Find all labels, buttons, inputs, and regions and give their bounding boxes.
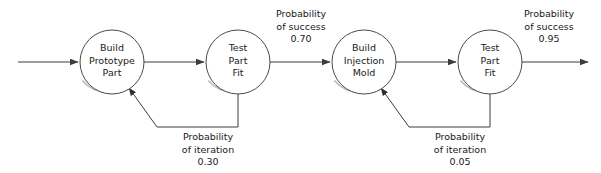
edge-test2-feedback-to-mold [381, 88, 490, 127]
annotation-line: Probability [183, 131, 234, 142]
annotation-value: 0.70 [290, 33, 311, 44]
node-label-line: Fit [484, 67, 495, 78]
node-label-line: Test [228, 42, 248, 53]
annotation-line: of iteration [434, 144, 486, 155]
annotation-line: Probability [435, 131, 486, 142]
node-label-line: Test [480, 42, 500, 53]
node-build-injection-mold[interactable]: Build Injection Mold [332, 30, 396, 94]
annotation-probability-of-success-070: Probability of success 0.70 [276, 8, 327, 44]
node-label-line: Build [352, 42, 376, 53]
annotation-line: Probability [276, 8, 327, 19]
annotation-line: of success [276, 21, 325, 32]
annotation-value: 0.30 [197, 156, 218, 167]
process-flow-diagram: Build Prototype Part Test Part Fit Build… [0, 0, 601, 173]
node-label-line: Mold [353, 67, 376, 78]
annotation-probability-of-iteration-030: Probability of iteration 0.30 [182, 131, 234, 167]
node-label-line: Part [229, 55, 248, 66]
node-test-part-fit-2[interactable]: Test Part Fit [458, 30, 522, 94]
node-label-line: Prototype [89, 55, 135, 66]
annotation-probability-of-success-095: Probability of success 0.95 [524, 8, 575, 44]
annotation-value: 0.95 [538, 33, 559, 44]
node-test-part-fit-1[interactable]: Test Part Fit [206, 30, 270, 94]
annotation-value: 0.05 [449, 156, 470, 167]
annotation-line: of iteration [182, 144, 234, 155]
edge-test1-feedback-to-prototype [129, 88, 238, 127]
node-label-line: Fit [232, 67, 243, 78]
annotation-line: of success [524, 21, 573, 32]
node-label-line: Build [100, 42, 124, 53]
node-label-line: Injection [344, 55, 385, 66]
annotation-probability-of-iteration-005: Probability of iteration 0.05 [434, 131, 486, 167]
node-build-prototype-part[interactable]: Build Prototype Part [80, 30, 144, 94]
annotation-line: Probability [524, 8, 575, 19]
node-label-line: Part [103, 67, 122, 78]
flow-diagram-canvas: Build Prototype Part Test Part Fit Build… [0, 0, 601, 173]
node-label-line: Part [481, 55, 500, 66]
